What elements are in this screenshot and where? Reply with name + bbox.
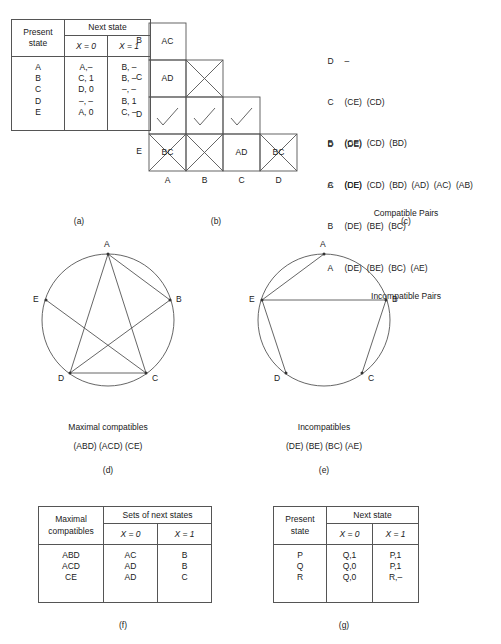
merger-cell-D-B	[186, 97, 223, 134]
compatible-row: D–	[318, 41, 498, 82]
panel-g-reduced-state-table: Present state Next state X = 0 X = 1 P Q…	[273, 506, 419, 603]
panel-d-title: Maximal compatibles	[18, 422, 198, 432]
table-row: Maximal compatibles Sets of next states	[39, 507, 212, 524]
table-row: P Q R Q,1 Q,0 Q,0 P,1 P,1 R,–	[274, 545, 419, 603]
table-row: A B C D E A,– C, 1 D, 0 –, – A, 0 B, – B…	[12, 57, 151, 131]
merger-row-label-B: B	[131, 35, 147, 45]
vertex-D	[285, 372, 288, 375]
header-maximal-compatibles: Maximal compatibles	[39, 507, 104, 545]
vertex-label-A: A	[320, 239, 326, 249]
cell-next-x1: P,1 P,1 R,–	[373, 545, 419, 603]
caption-g: (g)	[273, 620, 415, 630]
edge-AB	[108, 254, 170, 300]
vertex-label-E: E	[33, 294, 39, 304]
vertex-A	[107, 253, 110, 256]
header-x1: X = 1	[158, 524, 212, 545]
panel-e-incompatibility-graph: A B C D E	[244, 243, 404, 398]
edge-AD	[70, 254, 108, 373]
edge-CE	[46, 300, 146, 373]
merger-row-label-D: D	[131, 109, 147, 119]
vertex-B	[169, 299, 172, 302]
caption-e: (e)	[234, 465, 414, 475]
caption-f: (f)	[38, 620, 208, 630]
panel-d-subtitle: (ABD) (ACD) (CE)	[18, 441, 198, 451]
vertex-label-C: C	[368, 373, 374, 383]
panel-b-merger-chart: B C D E A B C D AC AD BC AD BC	[131, 18, 301, 173]
table-row: ABD ACD CE AC AD AD B B C	[39, 545, 212, 603]
incompatible-row-pairs: (DE)	[344, 139, 361, 149]
panel-e-title: Incompatibles	[234, 422, 414, 432]
merger-row-label-C: C	[131, 72, 147, 82]
panel-a-state-table: Present state Next state X = 0 X = 1 A B…	[11, 19, 151, 131]
cell-next-x0: Q,1 Q,0 Q,0	[327, 545, 373, 603]
vertex-A	[323, 253, 326, 256]
header-sets-of-next-states: Sets of next states	[104, 507, 212, 524]
compatibility-graph-svg	[28, 243, 188, 398]
state-table-a: Present state Next state X = 0 X = 1 A B…	[11, 19, 151, 131]
vertex-label-D: D	[274, 373, 280, 383]
check-mark-D-B	[194, 108, 215, 125]
merger-text-E-C: AD	[223, 147, 260, 157]
merger-text-E-D: BC	[260, 147, 297, 157]
incompatible-row-key: C	[327, 179, 344, 193]
compatible-row-key: C	[327, 96, 344, 110]
edge-BC	[362, 300, 386, 373]
cell-next-x0: A,– C, 1 D, 0 –, – A, 0	[65, 57, 108, 131]
merger-cell-D-A	[149, 97, 186, 134]
table-row: Present state Next state	[12, 20, 151, 36]
merger-cell-D-C	[223, 97, 260, 134]
compatible-row-pairs: (CE) (CD)	[344, 97, 384, 107]
merger-row-label-E: E	[131, 146, 147, 156]
merger-col-label-A: A	[149, 175, 186, 185]
graph-circle	[42, 254, 174, 386]
incompatible-row: C(DE)	[318, 165, 498, 206]
vertex-E	[261, 299, 264, 302]
cell-maximal-compatibles: ABD ACD CE	[39, 545, 104, 603]
incompatible-row-pairs: (DE)	[344, 180, 361, 190]
incompatible-row: B(DE) (BE) (BC)	[318, 207, 498, 248]
merger-col-label-B: B	[186, 175, 223, 185]
graph-circle	[258, 254, 390, 386]
vertex-label-B: B	[176, 294, 182, 304]
edge-BD	[70, 300, 170, 373]
vertex-C	[145, 372, 148, 375]
panel-d-compatibility-graph: A B C D E	[28, 243, 188, 398]
vertex-label-D: D	[58, 373, 64, 383]
header-present-state: Present state	[12, 20, 65, 57]
caption-c: (c)	[318, 216, 494, 226]
vertex-B	[385, 299, 388, 302]
header-present-state: Present state	[274, 507, 327, 545]
edge-AC	[108, 254, 146, 373]
compatible-row: C(CE) (CD)	[318, 82, 498, 123]
caption-a: (a)	[11, 216, 147, 226]
merger-text-B-A: AC	[149, 36, 186, 46]
incompatible-row: D(DE)	[318, 124, 498, 165]
merger-col-label-D: D	[260, 175, 297, 185]
graph-edges	[262, 254, 386, 373]
table-row: Present state Next state	[274, 507, 419, 524]
merger-col-label-C: C	[223, 175, 260, 185]
compatible-row-pairs: –	[344, 56, 349, 66]
header-x0: X = 0	[65, 36, 108, 57]
incompatible-row-key: D	[327, 138, 344, 152]
state-table-f: Maximal compatibles Sets of next states …	[38, 506, 212, 603]
header-x0: X = 0	[327, 524, 373, 545]
vertex-label-C: C	[152, 373, 158, 383]
check-mark-D-C	[231, 108, 252, 125]
panel-f-next-state-sets: Maximal compatibles Sets of next states …	[38, 506, 212, 603]
vertex-label-B: B	[392, 294, 398, 304]
vertex-label-E: E	[249, 294, 255, 304]
cell-next-x1: B B C	[158, 545, 212, 603]
merger-text-E-A: BC	[149, 147, 186, 157]
vertex-label-A: A	[104, 239, 110, 249]
state-table-g: Present state Next state X = 0 X = 1 P Q…	[273, 506, 419, 603]
vertex-C	[361, 372, 364, 375]
header-x1: X = 1	[373, 524, 419, 545]
merger-text-C-A: AD	[149, 73, 186, 83]
check-mark-D-A	[157, 108, 178, 125]
cell-present-states: A B C D E	[12, 57, 65, 131]
vertex-E	[45, 299, 48, 302]
header-x0: X = 0	[104, 524, 158, 545]
compatible-row-key: D	[327, 55, 344, 69]
cell-next-x0: AC AD AD	[104, 545, 158, 603]
